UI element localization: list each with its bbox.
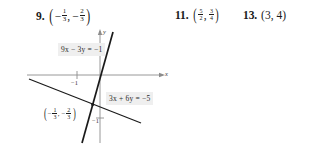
- x-axis-label: x: [165, 70, 168, 77]
- x-sign: −: [55, 10, 62, 22]
- comma-separator: ,: [58, 110, 60, 118]
- comma-separator: ,: [67, 10, 70, 22]
- x-numerator: 1: [53, 107, 57, 113]
- close-paren: ): [72, 109, 75, 120]
- y-denominator: 3: [80, 16, 85, 23]
- answer-item-9: 9. ( − 1 3 , − 2 3 ): [36, 8, 91, 24]
- y-sign: −: [72, 10, 79, 22]
- x-fraction: 5 2: [198, 8, 203, 22]
- x-tick-label-neg1: −1: [71, 79, 78, 86]
- x-fraction: 1 3: [62, 8, 67, 24]
- y-denominator: 4: [209, 15, 213, 21]
- open-paren: (: [194, 8, 197, 21]
- comma-separator: ,: [204, 9, 207, 21]
- y-axis-label: y: [103, 28, 106, 35]
- intersection-point-label: ( − 1 3 , − 2 3 ): [43, 107, 76, 121]
- x-fraction: 1 3: [52, 107, 57, 121]
- y-numerator: 3: [209, 8, 213, 14]
- x-numerator: 5: [199, 8, 203, 14]
- x-sign: −: [48, 110, 52, 118]
- y-tick-label-neg1: −1: [92, 117, 99, 124]
- answer-number-13: 13.: [243, 9, 257, 21]
- graph-figure: 9x − 3y = −1 3x + 6y = −5 y x −1 −1 ( − …: [22, 26, 172, 145]
- y-sign: −: [61, 110, 65, 118]
- answer-value-9: ( − 1 3 , − 2 3 ): [48, 8, 91, 24]
- equation-label-3x-6y: 3x + 6y = −5: [106, 92, 153, 105]
- y-fraction: 2 3: [80, 8, 85, 24]
- close-paren: ): [86, 9, 90, 24]
- y-numerator: 2: [80, 8, 85, 15]
- y-fraction: 3 4: [209, 8, 214, 22]
- equation-label-9x-3y: 9x − 3y = −1: [58, 43, 105, 56]
- y-numerator: 2: [67, 107, 71, 113]
- close-paren: ): [215, 8, 218, 21]
- answer-item-13: 13. (3, 4): [243, 9, 286, 21]
- answer-number-11: 11.: [175, 9, 188, 21]
- intersection-point-marker: [91, 103, 94, 106]
- x-denominator: 3: [53, 114, 57, 120]
- answer-value-11: ( 5 2 , 3 4 ): [192, 8, 219, 22]
- answer-item-11: 11. ( 5 2 , 3 4 ): [175, 8, 220, 22]
- x-denominator: 3: [62, 16, 67, 23]
- y-fraction: 2 3: [66, 107, 71, 121]
- open-paren: (: [44, 109, 47, 120]
- answer-value-13: (3, 4): [261, 9, 286, 21]
- open-paren: (: [50, 9, 54, 24]
- x-numerator: 1: [62, 8, 67, 15]
- y-denominator: 3: [67, 114, 71, 120]
- x-denominator: 2: [199, 15, 203, 21]
- answer-number-9: 9.: [36, 10, 44, 22]
- y-axis-arrowhead: [98, 29, 102, 35]
